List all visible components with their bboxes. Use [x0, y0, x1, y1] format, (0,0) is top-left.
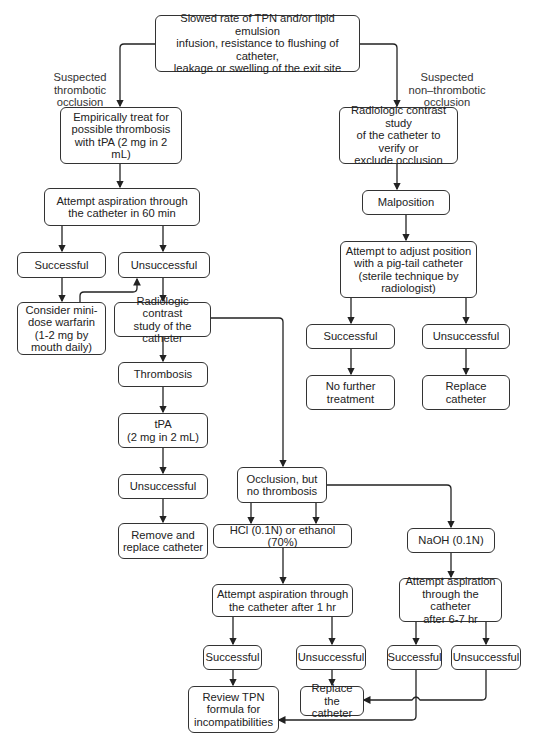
- empiric-tpa-node: Empirically treat for possible thrombosi…: [60, 107, 182, 164]
- unsuccessful-1-node: Unsuccessful: [118, 252, 210, 278]
- successful-5-node: Successful: [387, 645, 442, 670]
- successful-2-node: Successful: [306, 324, 395, 349]
- review-tpn-node: Review TPN formula for incompatibilities: [188, 686, 279, 733]
- edge-label-non-thrombotic: Suspected non–thrombotic occlusion: [402, 71, 492, 109]
- no-further-node: No further treatment: [306, 375, 395, 410]
- radiologic-verify-node: Radiologic contrast study of the cathete…: [339, 107, 458, 164]
- replace-catheter-node: Replace catheter: [422, 375, 510, 410]
- successful-4-node: Successful: [203, 645, 262, 670]
- hcl-node: HCl (0.1N) or ethanol (70%): [213, 524, 352, 548]
- pigtail-node: Attempt to adjust position with a pig-ta…: [340, 241, 477, 298]
- warfarin-node: Consider mini- dose warfarin (1-2 mg by …: [17, 302, 106, 355]
- aspirate-1hr-node: Attempt aspiration through the catheter …: [212, 584, 353, 617]
- tpa-node: tPA (2 mg in 2 mL): [118, 413, 208, 448]
- aspirate-67hr-node: Attempt aspiration through the catheter …: [399, 578, 502, 622]
- remove-replace-node: Remove and replace catheter: [118, 523, 208, 559]
- thrombosis-node: Thrombosis: [118, 362, 208, 387]
- malposition-node: Malposition: [362, 190, 450, 215]
- unsuccessful-5-node: Unsuccessful: [451, 645, 521, 670]
- unsuccessful-2-node: Unsuccessful: [422, 324, 510, 349]
- start-node: Slowed rate of TPN and/or lipid emulsion…: [155, 15, 360, 72]
- unsuccessful-3-node: Unsuccessful: [118, 474, 208, 499]
- edge-label-thrombotic: Suspected thrombotic occlusion: [40, 71, 120, 109]
- naoh-node: NaOH (0.1N): [407, 528, 495, 553]
- unsuccessful-4-node: Unsuccessful: [296, 645, 366, 670]
- replace-the-catheter-node: Replace the catheter: [300, 686, 364, 716]
- aspirate-60-node: Attempt aspiration through the catheter …: [44, 188, 200, 226]
- radiologic-study-node: Radiologic contrast study of the cathete…: [114, 302, 211, 337]
- successful-1-node: Successful: [17, 252, 106, 278]
- occlusion-node: Occlusion, but no thrombosis: [237, 467, 327, 503]
